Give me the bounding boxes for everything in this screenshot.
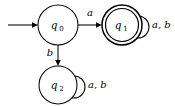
start-arrow-head <box>32 22 38 28</box>
transition-q0-q1-arrowhead <box>96 22 102 28</box>
transition-q0-q1-label: a <box>87 7 93 18</box>
transition-q0-q2-arrowhead <box>55 60 61 66</box>
state-q2-label: q <box>51 79 58 91</box>
state-q0-label: q <box>51 19 58 31</box>
state-q1[interactable]: q 1 <box>102 5 142 45</box>
state-q1-label: q <box>115 19 122 31</box>
automaton-canvas: a b a, b a, b q 0 q <box>0 0 175 106</box>
state-q0-label-subscript: 0 <box>59 25 63 33</box>
transition-q0-q2: b <box>47 45 61 66</box>
state-q1-inner-circle <box>106 9 139 42</box>
self-loop-q1-label: a, b <box>152 19 171 30</box>
state-q1-label-subscript: 1 <box>123 25 127 33</box>
state-q0[interactable]: q 0 <box>38 5 78 45</box>
state-q2-circle[interactable] <box>39 66 77 104</box>
transition-q0-q1: a <box>78 7 102 28</box>
self-loop-q2-label: a, b <box>88 79 107 90</box>
start-arrow <box>8 22 38 28</box>
transition-q0-q2-label: b <box>47 47 53 58</box>
state-q0-circle[interactable] <box>38 5 78 45</box>
state-q2[interactable]: q 2 <box>39 66 77 104</box>
automaton-diagram: a b a, b a, b q 0 q <box>0 0 175 106</box>
state-q2-label-subscript: 2 <box>59 85 63 93</box>
